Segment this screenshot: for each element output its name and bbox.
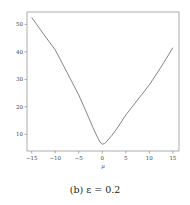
plot-area-border [27, 12, 179, 151]
y-tick-label: 20 [16, 104, 23, 110]
x-tick-label: 10 [146, 155, 153, 161]
x-tick-label: −15 [26, 155, 38, 161]
y-tick-label: 10 [16, 131, 23, 137]
axes-frame [27, 12, 179, 151]
x-tick-label: 5 [124, 155, 128, 161]
data-series [32, 17, 173, 144]
x-axis-label: μ [101, 163, 105, 170]
x-tick-label: 15 [169, 155, 176, 161]
x-tick-label: −5 [75, 155, 84, 161]
line-chart: −15−10−5051015 1020304050 μ [0, 0, 190, 180]
y-tick-label: 30 [16, 76, 23, 82]
x-tick-label: 0 [101, 155, 105, 161]
x-axis-ticks: −15−10−5051015 [26, 151, 177, 161]
x-tick-label: −10 [49, 155, 61, 161]
y-tick-label: 50 [16, 21, 23, 27]
figure-caption: (b) ε = 0.2 [0, 184, 190, 195]
y-axis-ticks: 1020304050 [16, 21, 27, 137]
series-line [32, 17, 173, 144]
y-tick-label: 40 [16, 49, 23, 55]
